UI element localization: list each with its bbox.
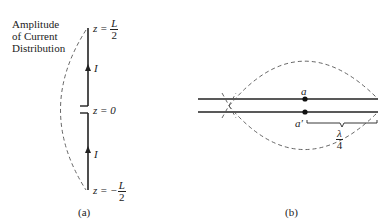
quarter-wavelength-label: λ4	[336, 128, 343, 151]
title-line-1: Amplitude	[12, 18, 65, 30]
quarter-wave-brace	[307, 120, 377, 127]
caption-a: (a)	[78, 206, 90, 218]
top-end-label: z = L2	[93, 18, 118, 41]
title-line-3: Distribution	[12, 42, 65, 54]
title-line-2: of Current	[12, 30, 65, 42]
current-label-upper: I	[94, 62, 98, 74]
terminal-a-prime-dot	[302, 109, 307, 114]
terminal-a-prime-label: a′	[295, 117, 303, 129]
terminal-a-label: a	[301, 85, 307, 97]
feed-point-label: z = 0	[93, 104, 116, 116]
transmission-line	[198, 99, 378, 112]
current-distribution-curve	[61, 30, 87, 190]
amplitude-title: Amplitude of Current Distribution	[12, 18, 65, 54]
terminal-a-dot	[302, 96, 307, 101]
current-label-lower: I	[94, 148, 98, 160]
caption-b: (b)	[285, 206, 298, 218]
current-arrow-lower-icon	[85, 146, 91, 153]
current-arrow-upper-icon	[85, 64, 91, 71]
dipole-antenna	[80, 28, 88, 190]
bottom-end-label: z = −L2	[93, 180, 126, 203]
